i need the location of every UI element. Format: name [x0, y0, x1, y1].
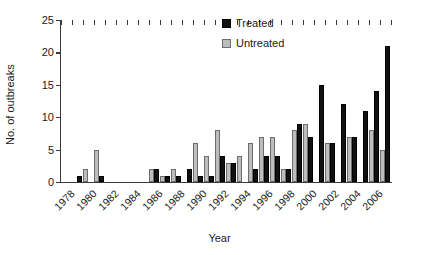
y-tick-label: 0: [48, 177, 54, 188]
bar-treated: [297, 124, 302, 182]
bar-treated: [385, 46, 390, 182]
x-axis-title: Year: [0, 232, 439, 244]
bar-treated: [176, 176, 181, 182]
y-tick-label: 25: [42, 15, 54, 26]
x-tick-mark: [72, 20, 73, 25]
x-tick-mark: [380, 20, 381, 25]
y-tick-mark: [56, 182, 61, 183]
bar-treated: [220, 156, 225, 182]
bar-treated: [275, 156, 280, 182]
x-tick-mark: [149, 20, 150, 25]
x-tick-mark: [127, 20, 128, 25]
chart-figure: No. of outbreaks 0510152025 197819801982…: [0, 0, 439, 255]
x-tick-mark: [138, 20, 139, 25]
x-tick-mark: [347, 20, 348, 25]
x-tick-mark: [336, 20, 337, 25]
y-tick-label: 20: [42, 47, 54, 58]
x-tick-mark: [292, 20, 293, 25]
bar-treated: [374, 91, 379, 182]
x-tick-mark: [314, 20, 315, 25]
legend-label: Treated: [236, 18, 274, 29]
y-tick-mark: [56, 117, 61, 118]
bar-treated: [209, 176, 214, 182]
y-axis-title: No. of outbreaks: [2, 50, 18, 160]
bar-treated: [77, 176, 82, 182]
x-tick-mark: [193, 20, 194, 25]
legend-item-untreated: Untreated: [222, 38, 284, 49]
x-tick-mark: [204, 20, 205, 25]
bar-treated: [319, 85, 324, 182]
x-tick-mark: [83, 20, 84, 25]
bar-treated: [99, 176, 104, 182]
bar-treated: [187, 169, 192, 182]
y-tick-mark: [56, 150, 61, 151]
legend-swatch-icon: [222, 19, 231, 28]
x-tick-mark: [105, 20, 106, 25]
bar-treated: [352, 137, 357, 182]
x-tick-mark: [303, 20, 304, 25]
x-tick-mark: [391, 20, 392, 25]
x-tick-mark: [325, 20, 326, 25]
x-tick-mark: [182, 20, 183, 25]
x-axis-labels: 1978198019821984198619881990199219941996…: [61, 188, 391, 234]
y-tick-label: 10: [42, 112, 54, 123]
y-tick-mark: [56, 52, 61, 53]
x-tick-mark: [160, 20, 161, 25]
bar-treated: [154, 169, 159, 182]
bar-treated: [308, 137, 313, 182]
bar-untreated: [83, 169, 88, 182]
bar-treated: [363, 111, 368, 182]
bar-treated: [165, 176, 170, 182]
legend-item-treated: Treated: [222, 18, 284, 29]
y-tick-label: 5: [48, 144, 54, 155]
bar-treated: [330, 143, 335, 182]
legend-label: Untreated: [236, 38, 284, 49]
x-tick-mark: [61, 20, 62, 25]
x-tick-mark: [358, 20, 359, 25]
bar-treated: [286, 169, 291, 182]
bar-treated: [253, 169, 258, 182]
x-tick-mark: [94, 20, 95, 25]
legend-swatch-icon: [222, 39, 231, 48]
bar-treated: [231, 163, 236, 182]
y-tick-label: 15: [42, 79, 54, 90]
x-tick-mark: [369, 20, 370, 25]
bar-treated: [198, 176, 203, 182]
x-tick-mark: [171, 20, 172, 25]
chart-legend: TreatedUntreated: [222, 18, 284, 58]
bar-treated: [264, 156, 269, 182]
x-tick-mark: [116, 20, 117, 25]
y-tick-mark: [56, 85, 61, 86]
x-axis-line: [60, 182, 392, 183]
bar-treated: [341, 104, 346, 182]
x-tick-mark: [215, 20, 216, 25]
bar-untreated: [237, 156, 242, 182]
